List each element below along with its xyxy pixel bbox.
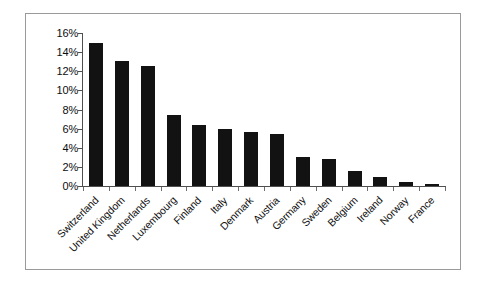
- x-axis-tick-mark: [419, 187, 420, 191]
- y-axis-tick-mark: [78, 167, 82, 168]
- x-axis-tick-mark: [83, 187, 84, 191]
- x-axis-tick-mark: [212, 187, 213, 191]
- x-axis-category-label: Italy: [208, 194, 230, 216]
- y-axis-tick-mark: [78, 71, 82, 72]
- y-axis-tick-mark: [78, 186, 82, 187]
- y-axis-tick-mark: [78, 33, 82, 34]
- x-axis-tick-mark: [161, 187, 162, 191]
- x-axis-tick-mark: [238, 187, 239, 191]
- x-axis-tick-mark: [264, 187, 265, 191]
- y-axis-tick-mark: [78, 110, 82, 111]
- y-axis-tick-mark: [78, 129, 82, 130]
- x-axis-category-labels: SwitzerlandUnited KingdomNetherlandsLuxe…: [26, 14, 462, 271]
- x-axis-tick-mark: [290, 187, 291, 191]
- y-axis-tick-mark: [78, 90, 82, 91]
- x-axis-tick-mark: [367, 187, 368, 191]
- x-axis-tick-mark: [186, 187, 187, 191]
- x-axis-tick-mark: [342, 187, 343, 191]
- x-axis-tick-mark: [445, 187, 446, 191]
- x-axis-tick-mark: [316, 187, 317, 191]
- x-axis-category-label: France: [405, 194, 436, 225]
- x-axis-tick-mark: [109, 187, 110, 191]
- y-axis-tick-mark: [78, 52, 82, 53]
- chart-frame: 0%2%4%6%8%10%12%14%16% SwitzerlandUnited…: [25, 13, 461, 270]
- y-axis-tick-mark: [78, 148, 82, 149]
- x-axis-tick-mark: [393, 187, 394, 191]
- x-axis-tick-mark: [135, 187, 136, 191]
